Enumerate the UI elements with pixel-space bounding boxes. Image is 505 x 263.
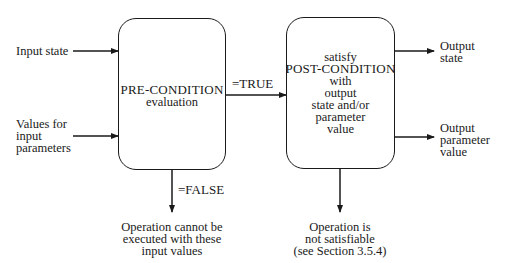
label-output-state: Output state xyxy=(440,40,475,64)
label-line: state xyxy=(440,52,475,64)
postcondition-line: value xyxy=(327,123,354,135)
precondition-subtitle: evaluation xyxy=(146,96,198,108)
label-false-text: =FALSE xyxy=(178,184,224,196)
label-input-state: Input state xyxy=(16,45,68,57)
label-line: parameters xyxy=(16,142,71,154)
precondition-box: PRE-CONDITION evaluation xyxy=(118,18,226,170)
label-output-parameter-value: Output parameter value xyxy=(440,122,490,158)
operation-semantics-diagram: Input state Values for input parameters … xyxy=(0,0,505,263)
unsatisfiable-outcome-text: Operation is not satisfiable (see Sectio… xyxy=(280,221,400,257)
false-outcome-text: Operation cannot be executed with these … xyxy=(112,221,232,257)
label-line: value xyxy=(440,146,490,158)
outcome-line: (see Section 3.5.4) xyxy=(280,245,400,257)
connector-arrows xyxy=(0,0,505,263)
outcome-line: input values xyxy=(112,245,232,257)
postcondition-box: satisfy POST-CONDITION with output state… xyxy=(286,17,395,169)
label-true: =TRUE xyxy=(232,78,273,90)
label-input-parameters: Values for input parameters xyxy=(16,118,71,154)
